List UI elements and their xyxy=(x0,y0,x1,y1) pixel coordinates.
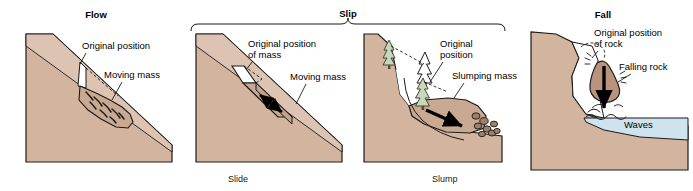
panel-flow: Flow xyxy=(26,9,172,162)
panel-flow-heading: Flow xyxy=(85,9,107,20)
slump-caption: Slump xyxy=(432,174,458,184)
slide-leader-moving-mass xyxy=(296,84,306,104)
fall-label-original-position-line2: of rock xyxy=(594,38,623,49)
slump-slope-body xyxy=(364,34,502,162)
panel-fall: Fall xyxy=(531,9,688,170)
slip-bracket-curve xyxy=(191,18,505,31)
slide-label-original-position-line1: Original position xyxy=(248,38,316,49)
fall-leader-falling-rock xyxy=(618,74,631,82)
slump-original-position-dashline xyxy=(391,46,424,64)
slump-label-original-position-line1: Original xyxy=(440,38,473,49)
slip-group-heading: Slip xyxy=(339,8,357,19)
fall-label-original-position-line1: Original position xyxy=(594,27,662,38)
slide-caption: Slide xyxy=(228,174,248,184)
slip-group-bracket: Slip xyxy=(191,8,505,31)
panel-slide: Original position of mass Moving mass Sl… xyxy=(196,34,346,184)
panel-fall-heading: Fall xyxy=(595,9,611,20)
slump-label-original-position-line2: position xyxy=(440,49,473,60)
slump-label-slumping-mass: Slumping mass xyxy=(452,70,517,81)
slump-leader-original-position xyxy=(430,62,443,82)
flow-label-moving-mass: Moving mass xyxy=(104,69,160,80)
fall-label-waves: Waves xyxy=(624,119,653,130)
slump-hillside xyxy=(364,34,502,162)
slide-label-moving-mass: Moving mass xyxy=(290,71,346,82)
panel-slump: Original position Slumping mass Slump xyxy=(364,34,517,184)
slide-label-original-position-line2: of mass xyxy=(248,49,282,60)
slump-leader-slumping-mass xyxy=(454,83,464,98)
flow-label-original-position: Original position xyxy=(82,40,150,51)
mass-movement-figure: Flow xyxy=(0,0,693,191)
fall-label-falling-rock: Falling rock xyxy=(619,61,668,72)
